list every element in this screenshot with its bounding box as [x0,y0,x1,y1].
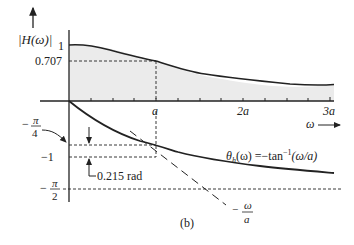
tangent-num: ω [244,199,252,211]
neg-pi4-num: π [33,114,39,126]
tick-a: a [152,104,158,118]
tangent-sign: − [232,203,238,215]
phase-formula: θh(ω) =−tan−1(ω/a) [226,148,317,165]
omega-label: ω [306,117,314,131]
tick-2a: 2a [237,104,249,118]
neg-pi4-den: 4 [32,127,38,139]
tick-one: 1 [58,39,64,53]
rad-leader [89,171,96,176]
caption: (b) [180,216,194,230]
neg-pi2-den: 2 [52,190,58,202]
neg-pi2-sign: − [40,181,47,195]
tick-0707: 0.707 [35,54,62,68]
tick-3a: 3a [322,104,335,118]
bode-figure: |H(ω)| 1 0.707 a 2a 3a ω − π 4 −1 0.215 … [0,0,354,245]
tick-minus-one: −1 [41,150,54,164]
magnitude-axis-label: |H(ω)| [18,32,52,47]
pi4-pointer-icon [42,130,66,142]
neg-pi2-num: π [52,177,58,189]
rad-label: 0.215 rad [97,169,142,183]
tangent-den: a [244,213,250,225]
neg-pi4-sign: − [22,117,29,131]
